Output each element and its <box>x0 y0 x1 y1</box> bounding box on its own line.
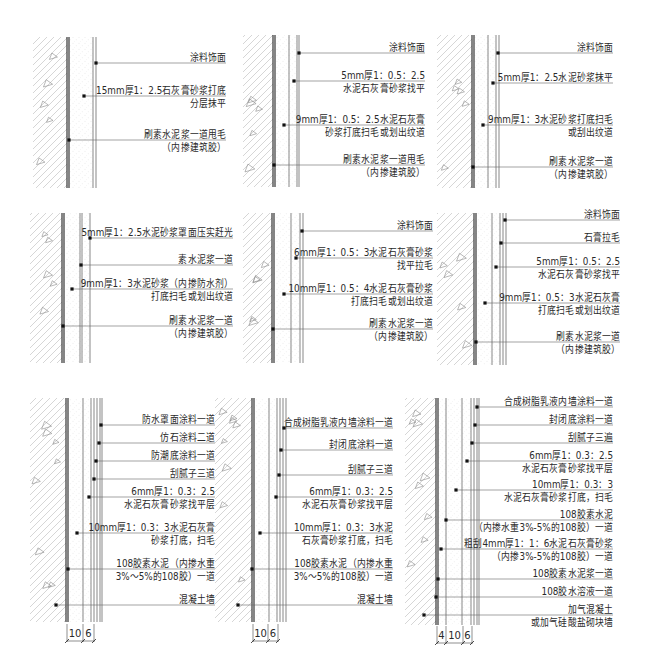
leader-dot <box>87 495 90 498</box>
layer-label: （内掺建筑胶） <box>556 342 620 355</box>
dimension-label: 6 <box>270 628 276 639</box>
layer-callout: 涂料饰面 <box>503 207 620 222</box>
layer-callout: 6mm厚1：0.3：2.5水泥石灰膏砂浆找平层 <box>274 485 393 510</box>
dimension-label: 6 <box>85 628 91 639</box>
layer-label: 分层抹平 <box>190 96 226 109</box>
layer-label: 刷素水泥浆一道 <box>556 329 620 342</box>
wall-finish-details-drawing: 涂料饰面15mm厚1：2.5石灰膏砂浆打底分层抹平刷素水泥浆一道甩毛（内掺建筑胶… <box>0 0 645 661</box>
leader-dot <box>94 459 97 462</box>
leader-dot <box>436 577 439 580</box>
leader-dot <box>250 567 253 570</box>
layer-callout: 10mm厚1：0.3：3水泥石灰膏砂浆打底，扫毛 <box>258 520 393 546</box>
leader-dot <box>282 292 285 295</box>
leader-dot <box>277 473 280 476</box>
leader-dot <box>491 81 494 84</box>
layer-label: 108胶素水泥（内掺水重 <box>116 556 215 569</box>
layer-label: 108胶素水泥浆一道 <box>532 566 613 579</box>
leader-dot <box>274 495 277 498</box>
layer-label: 刷素水泥浆一道 <box>169 313 233 326</box>
leader-dot <box>434 595 437 598</box>
layer-label: 素水泥浆一道 <box>178 252 233 265</box>
leader-dot <box>70 287 73 290</box>
layer-label: 粗刮4mm厚1：1：6水泥石灰膏砂浆 <box>464 536 613 549</box>
layer-callout: 10mm厚1：0.5：4水泥石灰膏砂浆打底扫毛或划出纹道 <box>282 281 433 307</box>
layer-callout: 合成树脂乳液内墙涂料一道 <box>475 394 613 409</box>
leader-dot <box>444 518 447 521</box>
layer-label: 涂料饰面 <box>389 40 425 53</box>
leader-dot <box>494 265 497 268</box>
layer-label: 封闭底涂料一道 <box>329 437 393 450</box>
layer-label: 3%～5%的108胶）一道 <box>116 569 215 582</box>
layer-label: 涂料饰面 <box>190 50 226 63</box>
dimension-chain: 106 <box>65 624 96 643</box>
layer-callout: 10mm厚1：0.3：3水泥石灰膏砂浆打底，扫毛 <box>454 478 613 503</box>
layer-callout: 素水泥浆一道 <box>79 252 233 267</box>
leader-dot <box>465 459 468 462</box>
layer-label: 刮腻子三道 <box>348 462 393 475</box>
layer-callout: 刮腻子三道 <box>277 462 393 477</box>
leader-dot <box>75 531 78 534</box>
detail-panels: 涂料饰面15mm厚1：2.5石灰膏砂浆打底分层抹平刷素水泥浆一道甩毛（内掺建筑胶… <box>30 35 620 645</box>
layer-label: （内掺水重3%-5%的108胶）一道 <box>474 520 613 533</box>
layer-label: （内掺建筑胶） <box>549 167 613 180</box>
layer-label: 刷素水泥浆一道 <box>549 154 613 167</box>
leader-dot <box>97 441 100 444</box>
layer-label: 10mm厚1：0.3：3水泥 <box>294 520 393 533</box>
layer-callout: 5mm厚1：2.5水泥砂浆罩面压实赶光 <box>81 225 233 240</box>
leader-dot <box>297 51 300 54</box>
layer-label: 水泥石灰膏砂浆找平 <box>343 81 425 94</box>
leader-dot <box>79 263 82 266</box>
leader-dot <box>279 448 282 451</box>
layer-label: 混凝土墙 <box>179 592 215 605</box>
layer-label: 混凝土墙 <box>357 592 393 605</box>
wall-hatch <box>30 398 66 622</box>
layer-label: 6mm厚1：0.3：2.5 <box>309 485 393 497</box>
wall-hatch <box>437 35 472 188</box>
leader-dot <box>292 79 295 82</box>
leader-dot <box>67 138 70 141</box>
leader-dot <box>481 123 484 126</box>
leader-dot <box>496 51 499 54</box>
layer-callout: 仿石涂料二道 <box>97 430 215 445</box>
layer-label: （内掺3%-5%的108胶）一道 <box>492 549 613 562</box>
wall-hatch <box>405 398 436 625</box>
layer-label: 砂浆打底扫毛或划出纹道 <box>325 125 425 138</box>
layer-label: 打底扫毛或划出纹道 <box>538 303 620 316</box>
layer-label: （内掺建筑胶） <box>369 329 433 342</box>
layer-label: 打底扫毛或划出纹道 <box>351 294 433 307</box>
layer-label: 刷素水泥浆一道 <box>369 316 433 329</box>
layer-label: 15mm厚1：2.5石灰膏砂浆打底 <box>96 83 226 96</box>
leader-dot <box>503 218 506 221</box>
leader-dot <box>94 61 97 64</box>
detail-panel: 防水罩面涂料一道仿石涂料二道防潮底涂料一道刮腻子三道6mm厚1：0.3：2.5水… <box>30 398 215 643</box>
plaster-stipple <box>438 398 471 625</box>
layer-callout: 9mm厚1：3水泥砂浆（内掺防水剂）打底扫毛或划出纹道 <box>70 276 233 302</box>
layer-label: 防水罩面涂料一道 <box>142 412 215 425</box>
layer-label: 或加气硅酸盐砌块墙 <box>531 615 613 628</box>
layer-label: 找平拉毛 <box>397 258 433 271</box>
wall-hatch <box>215 398 252 622</box>
layer-label: 9mm厚1：0.5：2.5水泥石灰膏 <box>296 112 425 125</box>
layer-callout: 9mm厚1：0.5：2.5水泥石灰膏砂浆打底扫毛或划出纹道 <box>282 112 425 138</box>
leader-dot <box>258 531 261 534</box>
layer-label: 打底扫毛或划出纹道 <box>151 289 233 302</box>
leader-dot <box>474 340 477 343</box>
layer-label: 5mm厚1：0.5：2.5 <box>536 255 620 267</box>
leader-dot <box>471 165 474 168</box>
dimension-label: 6 <box>464 630 470 641</box>
wall-hatch <box>243 35 273 187</box>
layer-label: 10mm厚1：0.3：3水泥石灰膏 <box>89 520 215 533</box>
layer-label: 水泥石灰膏砂浆找平 <box>538 267 620 280</box>
layer-label: 涂料饰面 <box>584 207 620 220</box>
leader-dot <box>54 603 57 606</box>
layer-label: 石灰膏砂浆打底，扫毛 <box>302 533 393 546</box>
layer-callout: 封闭底涂料一道 <box>279 437 393 452</box>
layer-label: 水泥石灰膏砂浆打底，扫毛 <box>504 490 613 503</box>
layer-label: 涂料饰面 <box>577 40 613 53</box>
layer-label: 水泥石灰膏砂浆找平层 <box>522 461 613 474</box>
plaster-stipple <box>474 35 496 188</box>
layer-callout: 涂料饰面 <box>94 50 226 65</box>
layer-label: 5mm厚1：2.5水泥砂浆抹平 <box>498 70 613 83</box>
layer-label: 加气混凝土 <box>568 602 613 615</box>
layer-callout: 涂料饰面 <box>496 40 613 55</box>
